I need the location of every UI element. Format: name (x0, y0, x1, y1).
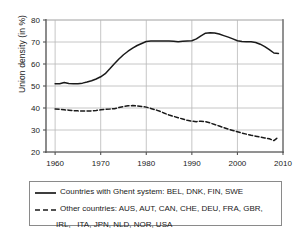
chart-legend: Countries with Ghent system: BEL, DNK, F… (29, 181, 282, 226)
y-tick-label: 30 (31, 126, 40, 135)
x-tick-label: 2010 (274, 159, 292, 168)
x-tick-label: 1980 (137, 159, 155, 168)
y-tick-label: 80 (31, 16, 40, 25)
line-chart-plot: 20304050607080196019701980199020002010 (0, 0, 298, 178)
chart-figure: Union density (in %) 2030405060708019601… (0, 0, 298, 234)
x-tick-label: 1990 (183, 159, 201, 168)
legend-entry-other-label: Other countries: AUS, AUT, CAN, CHE, DEU… (60, 204, 263, 215)
x-tick-label: 1970 (92, 159, 110, 168)
y-tick-label: 40 (31, 104, 40, 113)
y-tick-label: 70 (31, 38, 40, 47)
legend-entry-other: Other countries: AUS, AUT, CAN, CHE, DEU… (30, 204, 281, 219)
legend-entry-ghent-label: Countries with Ghent system: BEL, DNK, F… (60, 187, 243, 198)
x-tick-label: 1960 (46, 159, 64, 168)
legend-dashed-line-icon (34, 204, 60, 215)
legend-solid-line-icon (34, 187, 60, 198)
y-tick-label: 20 (31, 148, 40, 157)
x-tick-label: 2000 (229, 159, 247, 168)
legend-entry-ghent: Countries with Ghent system: BEL, DNK, F… (30, 187, 281, 202)
legend-entry-other-label-line2: IRL, ITA, JPN, NLD, NOR, USA (30, 220, 281, 231)
y-tick-label: 60 (31, 60, 40, 69)
y-tick-label: 50 (31, 82, 40, 91)
